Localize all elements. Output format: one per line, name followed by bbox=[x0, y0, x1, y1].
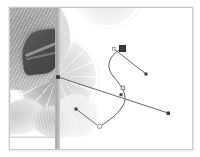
document-canvas[interactable] bbox=[9, 7, 193, 150]
handle-endpoint-bottom-left-icon[interactable] bbox=[75, 108, 78, 111]
vector-path-overlay[interactable] bbox=[10, 8, 192, 149]
handle-line-top[interactable] bbox=[114, 49, 146, 74]
anchor-point-mid[interactable] bbox=[121, 86, 124, 89]
app-root bbox=[0, 0, 200, 157]
anchor-point-left[interactable] bbox=[56, 75, 60, 79]
anchor-point-curve-top[interactable] bbox=[113, 48, 116, 51]
handle-endpoint-diagonal-icon[interactable] bbox=[167, 112, 171, 116]
handle-line-bottom-left[interactable] bbox=[76, 109, 97, 125]
handle-endpoint-top-icon[interactable] bbox=[145, 73, 148, 76]
anchor-point-end[interactable] bbox=[97, 124, 101, 128]
anchor-point-selected[interactable] bbox=[120, 46, 126, 52]
anchor-point-mid-on-curve[interactable] bbox=[120, 93, 123, 96]
